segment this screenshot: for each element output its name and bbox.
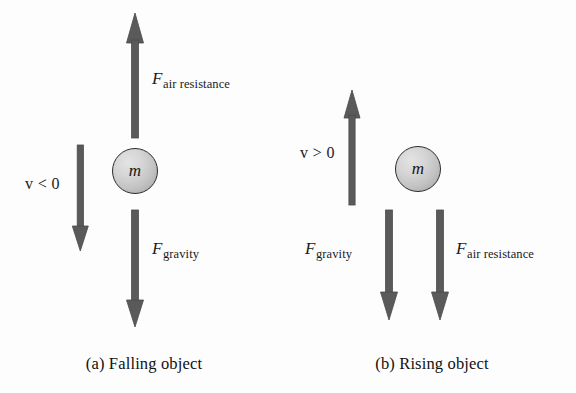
force-label-air-resistance: Fair resistance	[456, 240, 534, 261]
arrow-gravity-down	[381, 210, 398, 320]
arrow-air-resistance-up	[127, 13, 144, 138]
arrow-velocity-up	[344, 90, 360, 205]
arrow-gravity-down	[127, 210, 144, 327]
panel-a-arrows	[0, 0, 288, 393]
mass-circle: m	[112, 148, 158, 194]
arrow-air-resistance-down	[432, 210, 449, 320]
force-label-gravity: Fgravity	[305, 240, 352, 261]
panel-caption-b: (b) Rising object	[288, 354, 576, 374]
force-symbol: F	[152, 239, 162, 258]
force-symbol: F	[456, 239, 466, 258]
panel-rising-object: m v > 0 Fgravity Fair resistance (b) Ris…	[288, 0, 576, 393]
force-subscript: gravity	[316, 247, 352, 261]
panel-caption-a: (a) Falling object	[0, 354, 288, 374]
panel-b-arrows	[288, 0, 576, 393]
panel-falling-object: m Fair resistance Fgravity v < 0 (a) Fal…	[0, 0, 288, 393]
velocity-text: v > 0	[300, 144, 335, 161]
force-label-gravity: Fgravity	[152, 240, 199, 261]
velocity-text: v < 0	[25, 175, 60, 192]
velocity-label: v > 0	[300, 145, 335, 161]
force-subscript: gravity	[163, 247, 199, 261]
physics-free-body-figure: m Fair resistance Fgravity v < 0 (a) Fal…	[0, 0, 576, 393]
arrow-velocity-down	[72, 145, 88, 251]
force-label-air-resistance: Fair resistance	[152, 70, 230, 91]
force-symbol: F	[152, 69, 162, 88]
force-subscript: air resistance	[163, 77, 230, 91]
force-subscript: air resistance	[467, 247, 534, 261]
force-symbol: F	[305, 239, 315, 258]
mass-circle: m	[395, 146, 441, 192]
mass-label: m	[129, 162, 141, 179]
mass-label: m	[412, 160, 424, 177]
velocity-label: v < 0	[25, 176, 60, 192]
